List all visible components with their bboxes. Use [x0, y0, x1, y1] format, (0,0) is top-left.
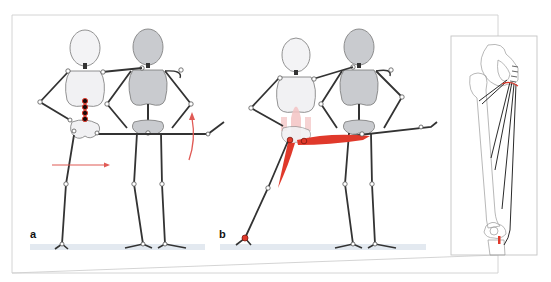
- rotation-arrow: [189, 112, 195, 160]
- panel-label-b: b: [219, 228, 226, 240]
- hamstring-muscle: [278, 142, 295, 188]
- panel-b: [236, 29, 437, 248]
- dark-skeleton-a: [105, 29, 193, 248]
- vertebrae-marker: [82, 98, 87, 121]
- panel-a: [38, 29, 224, 249]
- light-skeleton-a: [38, 30, 224, 249]
- light-skeleton-b: [236, 38, 437, 245]
- panel-label-a: a: [30, 228, 36, 240]
- translation-arrow: [52, 163, 110, 168]
- figure-canvas: [0, 0, 551, 282]
